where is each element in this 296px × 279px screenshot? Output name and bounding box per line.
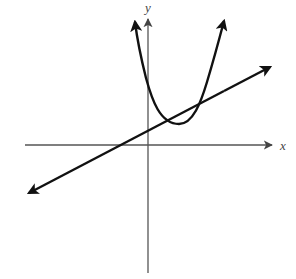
line-curve-left	[29, 91, 224, 193]
x-axis-label: x	[279, 138, 286, 153]
parabola-left-branch	[135, 22, 179, 124]
parabola-right-branch	[179, 21, 224, 124]
coordinate-graph: x y	[0, 0, 296, 279]
y-axis-label: y	[143, 0, 151, 15]
line-curve	[224, 67, 270, 91]
